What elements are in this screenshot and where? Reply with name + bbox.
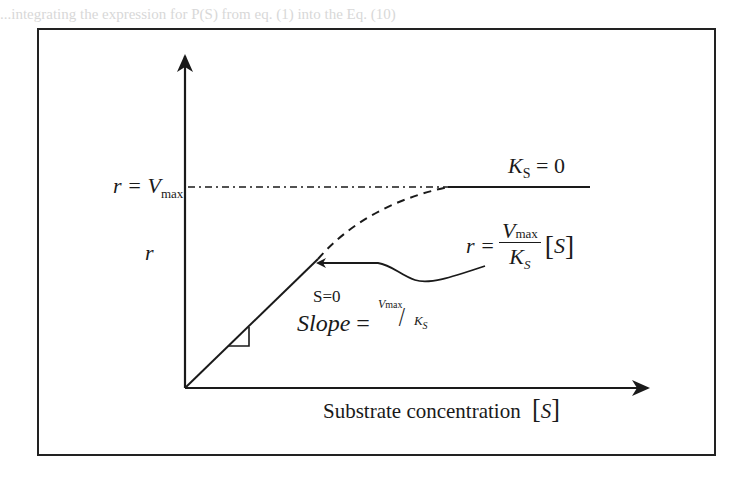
x-axis-label: Substrate concentration [S] bbox=[323, 395, 560, 425]
ks-zero-label: KS = 0 bbox=[508, 153, 565, 182]
pointer-arrow-icon bbox=[318, 263, 485, 281]
slope-label: Slope = Vmax / KS bbox=[297, 303, 438, 337]
michaelis-linear-equation: r = Vmax KS [S] bbox=[466, 220, 574, 272]
saturation-curve-dashed bbox=[318, 187, 448, 259]
y-axis-label: r bbox=[145, 240, 154, 266]
vmax-label: r = Vmax bbox=[113, 173, 183, 202]
